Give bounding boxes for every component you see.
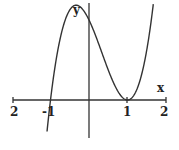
x-axis-label: x — [157, 81, 165, 95]
tick-label-neg-1: -1 — [42, 105, 55, 119]
tick-label-right-2: 2 — [160, 105, 168, 119]
cubic-function-graph: y x 2 -1 1 2 — [0, 0, 179, 150]
function-curve — [47, 4, 153, 131]
y-axis-label: y — [72, 3, 81, 17]
tick-label-pos-1: 1 — [123, 105, 131, 119]
tick-label-left-2: 2 — [10, 105, 18, 119]
